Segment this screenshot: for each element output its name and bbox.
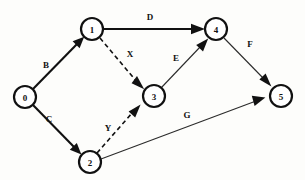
node-3-label: 3: [152, 92, 157, 102]
node-0-label: 0: [23, 93, 28, 103]
edge-x[interactable]: [100, 38, 144, 89]
node-2-label: 2: [88, 158, 93, 168]
edge-label-y: Y: [105, 123, 112, 133]
edge-label-g: G: [183, 110, 190, 120]
edge-label-c: C: [46, 114, 53, 124]
node-2[interactable]: 2: [79, 151, 101, 173]
edge-b-line: [33, 42, 79, 89]
network-diagram: B C D X Y E F G 0 1 2 3: [0, 0, 305, 180]
node-4[interactable]: 4: [205, 18, 227, 40]
edge-g-line: [101, 101, 256, 159]
edge-b[interactable]: [33, 37, 84, 89]
edge-label-d: D: [147, 12, 154, 22]
node-4-label: 4: [214, 25, 219, 35]
edge-label-e: E: [173, 53, 179, 63]
diagram-canvas: B C D X Y E F G 0 1 2 3: [0, 0, 305, 180]
edge-c-line: [33, 105, 76, 149]
edge-g[interactable]: [101, 96, 265, 159]
node-5-label: 5: [279, 92, 284, 102]
node-0[interactable]: 0: [14, 86, 36, 108]
node-3[interactable]: 3: [143, 85, 165, 107]
edge-label-x: X: [127, 49, 134, 59]
edge-x-arrowhead: [132, 76, 145, 89]
edge-e[interactable]: [161, 39, 208, 88]
edge-c[interactable]: [33, 105, 81, 154]
edge-d[interactable]: [103, 24, 205, 34]
node-1-label: 1: [90, 25, 95, 35]
edge-y-line: [97, 112, 133, 153]
edge-g-arrowhead: [252, 96, 266, 106]
edge-e-line: [161, 46, 201, 88]
edge-label-f: F: [247, 39, 253, 49]
node-1[interactable]: 1: [81, 18, 103, 40]
edge-x-line: [100, 38, 137, 82]
node-5[interactable]: 5: [270, 85, 292, 107]
edge-d-arrowhead: [191, 24, 205, 34]
edge-f-line: [224, 38, 264, 79]
edge-y[interactable]: [97, 104, 141, 153]
edge-label-b: B: [43, 60, 49, 70]
